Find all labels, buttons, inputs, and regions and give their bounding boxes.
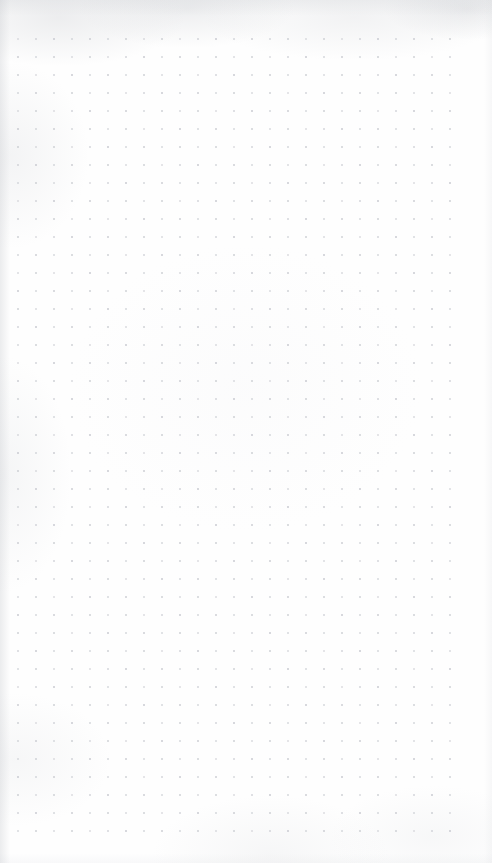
page-content-area[interactable] [17, 38, 465, 836]
dot-grid-page [0, 0, 492, 863]
